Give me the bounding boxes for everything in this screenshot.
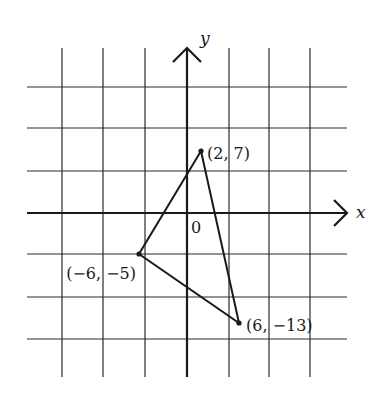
vertex-dot-icon [136,251,141,256]
coordinate-plane: x y 0 (2, 7)(−6, −5)(6, −13) [0,0,380,393]
origin-label: 0 [191,218,201,237]
vertex-dot-icon [236,320,241,325]
vertex-label: (−6, −5) [66,264,136,283]
axes: x y 0 [27,28,366,377]
y-axis-label: y [199,28,210,48]
vertex-dot-icon [198,148,203,153]
x-axis-label: x [356,202,366,222]
vertex-label: (6, −13) [246,316,313,335]
vertex-label: (2, 7) [207,144,250,163]
